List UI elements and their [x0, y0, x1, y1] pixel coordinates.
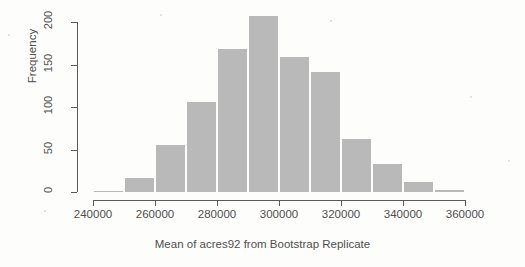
histogram-bar — [248, 15, 279, 192]
x-axis-tick-label: 260000 — [120, 208, 190, 220]
x-axis-tick-label: 320000 — [306, 208, 376, 220]
histogram-bars — [93, 22, 465, 192]
histogram-bar — [279, 56, 310, 192]
histogram-bar — [434, 189, 465, 192]
y-axis-tick-label: 200 — [42, 0, 54, 40]
x-axis-tick — [217, 200, 218, 206]
y-axis-tick-label: 100 — [42, 85, 54, 125]
x-axis-tick — [279, 200, 280, 206]
histogram-bar — [155, 144, 186, 192]
histogram-bar — [310, 71, 341, 192]
histogram-bar — [372, 163, 403, 192]
y-axis-tick — [71, 65, 77, 66]
x-axis-tick — [341, 200, 342, 206]
y-axis-tick-label: 150 — [42, 43, 54, 83]
histogram-bar — [186, 101, 217, 192]
page-speckle — [470, 96, 472, 98]
x-axis-tick-label: 360000 — [430, 208, 500, 220]
y-axis-title: Frequency — [26, 0, 38, 121]
x-axis-tick — [155, 200, 156, 206]
histogram-figure: 050100150200 Frequency 24000026000028000… — [0, 0, 525, 267]
histogram-bar — [217, 48, 248, 193]
page-speckle — [44, 210, 46, 212]
page-speckle — [8, 34, 10, 36]
x-axis-tick — [465, 200, 466, 206]
page-speckle — [508, 160, 510, 162]
y-axis-tick — [71, 192, 77, 193]
x-axis-tick-label: 300000 — [244, 208, 314, 220]
y-axis-tick — [71, 22, 77, 23]
x-axis-title: Mean of acres92 from Bootstrap Replicate — [0, 238, 525, 250]
x-axis-tick-label: 240000 — [58, 208, 128, 220]
histogram-bar — [403, 181, 434, 192]
y-axis-line — [77, 22, 78, 192]
histogram-bar — [341, 138, 372, 192]
page-speckle — [160, 14, 162, 16]
histogram-bar — [93, 190, 124, 192]
x-axis-tick-label: 280000 — [182, 208, 252, 220]
y-axis-tick — [71, 150, 77, 151]
histogram-bar — [124, 177, 155, 192]
x-axis-tick — [403, 200, 404, 206]
y-axis-tick — [71, 107, 77, 108]
plot-area — [93, 22, 465, 192]
x-axis-tick-label: 340000 — [368, 208, 438, 220]
y-axis-tick-label: 0 — [42, 170, 54, 210]
x-axis-tick — [93, 200, 94, 206]
y-axis-tick-label: 50 — [42, 128, 54, 168]
